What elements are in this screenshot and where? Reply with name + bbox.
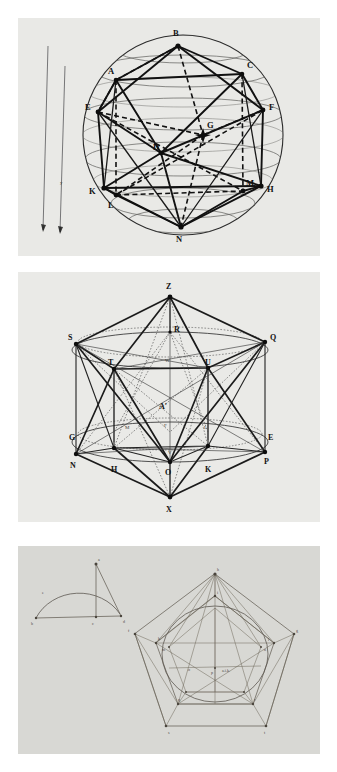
label-A: A <box>108 66 115 76</box>
ms-label-p: p <box>211 670 213 675</box>
label-K: K <box>205 465 212 474</box>
label-E: E <box>85 102 91 112</box>
label-D: D <box>153 142 159 152</box>
label-K: K <box>89 186 96 196</box>
label-M: M <box>125 425 130 430</box>
label-U: U <box>205 358 211 367</box>
label-S: S <box>68 333 73 342</box>
icosahedron-edges <box>98 46 263 227</box>
label-R: R <box>174 325 180 334</box>
label-T: T <box>108 358 114 367</box>
ms-label-d: d <box>123 619 125 624</box>
label-L: L <box>204 425 207 430</box>
label-O: O <box>165 468 171 477</box>
label-N: N <box>176 234 183 244</box>
label-B: B <box>173 28 179 38</box>
ms-label-c: c <box>92 621 94 626</box>
ms-label-e: e <box>42 590 44 595</box>
scale-bars <box>41 46 65 234</box>
ms-label-i: i <box>217 590 219 595</box>
label-F: F <box>269 102 274 112</box>
ms-label-q: q <box>178 697 180 702</box>
label-G: G <box>207 120 214 130</box>
label-G: G <box>69 433 75 442</box>
scale-label-y: y <box>60 180 63 185</box>
ms-label-o: o <box>188 667 190 672</box>
plate-page: y x <box>0 0 337 772</box>
figure-1-panel: y x <box>18 18 320 256</box>
figure-1-drawing: y x <box>18 18 320 256</box>
ms-label-s: s <box>168 730 170 735</box>
ms-label-a: a <box>98 557 100 562</box>
pentagonal-projection: h i f g k l m n o p q r s t a.i.k. <box>128 567 298 735</box>
label-F: F <box>164 423 167 428</box>
label-H: H <box>111 465 118 474</box>
label-W: W <box>165 358 170 363</box>
ms-label-m: m <box>162 647 166 652</box>
label-V: V <box>168 450 172 455</box>
label-Z: Z <box>166 282 171 291</box>
label-N: N <box>70 461 76 470</box>
figure-3-panel: a b c d e <box>18 546 320 754</box>
label-E: E <box>268 433 273 442</box>
label-C: C <box>247 60 253 70</box>
ms-label-k: k <box>158 636 160 641</box>
label-X: X <box>166 505 172 514</box>
figure-2-drawing: Z S Q R W T U A' F M L G E V N H O K P X <box>18 272 320 522</box>
label-H: H <box>267 184 274 194</box>
ms-label-b: b <box>31 621 33 626</box>
label-A-prime: A' <box>159 402 167 411</box>
ms-label-h: h <box>217 567 219 572</box>
ms-label-f: f <box>128 628 130 633</box>
label-M: M <box>246 178 254 188</box>
label-L: L <box>108 200 114 210</box>
antiprism-mesh <box>76 342 265 462</box>
ms-annotation: a.i.k. <box>222 668 230 673</box>
label-P: P <box>264 457 269 466</box>
figure-2-panel: Z S Q R W T U A' F M L G E V N H O K P X <box>18 272 320 522</box>
semicircle-construction: a b c d e <box>31 557 125 626</box>
label-Q: Q <box>270 333 276 342</box>
ms-label-g: g <box>296 628 298 633</box>
vertex-dots <box>96 43 266 229</box>
ms-label-n: n <box>264 647 266 652</box>
figure-3-drawing: a b c d e <box>18 546 320 754</box>
ms-label-t: t <box>264 730 266 735</box>
